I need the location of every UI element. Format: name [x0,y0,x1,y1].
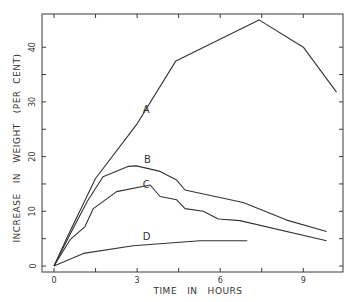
x-axis-title: TIME IN HOURS [152,286,242,296]
series-c: C [54,179,327,266]
series-label: C [143,179,150,190]
y-tick-label: 0 [29,263,38,268]
series-b: B [54,154,327,266]
series-d: D [54,231,247,266]
x-tick-label: 9 [301,276,306,285]
line-chart: 010203040 0369 ABCD TIME IN HOURS INCREA… [0,0,355,302]
y-axis-title: INCREASE IN WEIGHT (PER CENT) [12,53,22,242]
y-tick-label: 40 [29,42,38,52]
y-tick-label: 10 [29,206,38,216]
series-line [54,185,327,266]
series-label: D [143,231,151,242]
series-a: A [54,20,337,266]
series-line [54,241,247,266]
series-label: A [143,104,150,115]
series-label: B [144,154,151,165]
y-tick-label: 20 [29,152,38,162]
y-tick-label: 30 [29,97,38,107]
x-tick-label: 0 [51,276,56,285]
x-tick-label: 6 [218,276,223,285]
series-line [54,20,337,266]
x-axis-ticks: 0369 [51,14,305,285]
x-tick-label: 3 [135,276,140,285]
data-series: ABCD [54,20,337,266]
